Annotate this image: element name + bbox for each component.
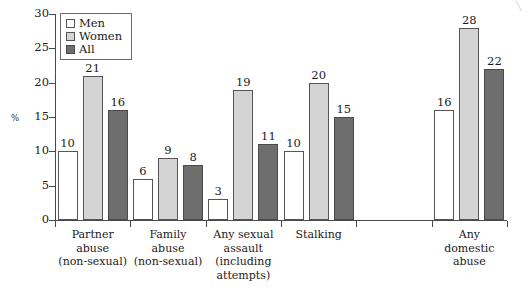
- bar-value-label: 15: [324, 103, 364, 115]
- bar-slot: 20: [306, 14, 331, 220]
- bar-group: 102015: [281, 14, 356, 220]
- bar-men: [208, 199, 228, 220]
- legend-label: All: [79, 43, 95, 56]
- y-axis-unit-label: %: [11, 113, 19, 123]
- scan-artifact-mark: ╲: [516, 2, 526, 11]
- category-label-line: abuse: [418, 255, 521, 269]
- category-label-line: (including: [192, 255, 295, 269]
- bar-slot: 19: [231, 14, 256, 220]
- legend-swatch-icon: [66, 32, 75, 41]
- category-label: Anydomesticabuse: [418, 228, 521, 269]
- category-label-line: assault: [192, 242, 295, 256]
- y-tick-label: 5: [3, 180, 49, 192]
- bar-all: [258, 144, 278, 220]
- bar-group: 162822: [432, 14, 507, 220]
- y-tick-label: 25: [3, 42, 49, 54]
- x-tick: [432, 221, 433, 227]
- bar-men: [58, 151, 78, 220]
- x-tick: [55, 221, 56, 227]
- x-tick: [356, 221, 357, 227]
- bar-slot: 16: [432, 14, 457, 220]
- bar-women: [233, 90, 253, 220]
- bar-women: [158, 158, 178, 220]
- bar-slot: 10: [281, 14, 306, 220]
- legend-swatch-icon: [66, 45, 75, 54]
- category-label-line: Stalking: [267, 228, 370, 242]
- y-tick-label: 0: [3, 214, 49, 226]
- bar-all: [484, 69, 504, 220]
- x-tick: [206, 221, 207, 227]
- bar-slot: 15: [331, 14, 356, 220]
- bar-men: [133, 179, 153, 220]
- category-label-line: attempts): [192, 269, 295, 283]
- bar-slot: 11: [256, 14, 281, 220]
- y-tick-label: 10: [3, 145, 49, 157]
- category-label: Stalking: [267, 228, 370, 242]
- bar-all: [334, 117, 354, 220]
- bar-slot: 6: [130, 14, 155, 220]
- x-tick: [507, 221, 508, 227]
- category-label-line: Any: [418, 228, 521, 242]
- x-tick: [130, 221, 131, 227]
- bar-men: [434, 110, 454, 220]
- x-tick: [281, 221, 282, 227]
- chart-legend: MenWomenAll: [60, 13, 132, 60]
- grouped-bar-chart: ╲ 302520151050 % 10211669831911102015162…: [0, 0, 529, 300]
- bar-value-label: 22: [474, 55, 514, 67]
- bar-slot: 22: [482, 14, 507, 220]
- bar-group: 31911: [206, 14, 281, 220]
- legend-item-all: All: [66, 43, 122, 56]
- bar-slot: 3: [206, 14, 231, 220]
- y-tick-label: 15: [3, 111, 49, 123]
- bar-group: 698: [130, 14, 205, 220]
- y-tick-label: 30: [3, 8, 49, 20]
- y-tick-label: 20: [3, 77, 49, 89]
- category-label-line: domestic: [418, 242, 521, 256]
- bar-slot: 28: [457, 14, 482, 220]
- bar-men: [284, 151, 304, 220]
- legend-swatch-icon: [66, 19, 75, 28]
- bar-slot: 9: [155, 14, 180, 220]
